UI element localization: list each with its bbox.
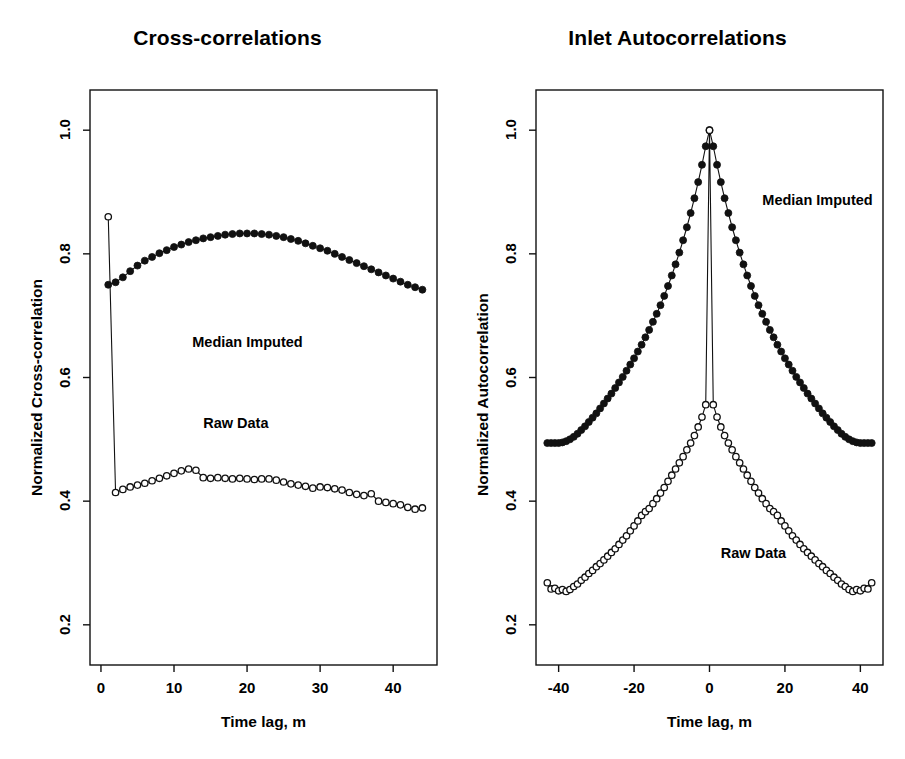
x-tick-label: 20 (217, 679, 277, 696)
data-point (747, 282, 754, 289)
data-point (638, 341, 645, 348)
y-tick-label: 0.8 (56, 236, 73, 270)
series-annotation: Raw Data (203, 415, 268, 431)
data-point (156, 475, 162, 481)
y-tick-label: 1.0 (502, 113, 519, 147)
data-point (171, 470, 177, 476)
data-point (207, 475, 213, 481)
x-tick-label: 0 (71, 679, 131, 696)
data-point (755, 302, 762, 309)
data-point (676, 460, 682, 466)
x-tick-label: 40 (830, 679, 890, 696)
data-point (127, 484, 133, 490)
data-point (744, 272, 751, 279)
y-tick-label: 0.2 (502, 607, 519, 641)
data-point (295, 237, 302, 244)
data-point (623, 367, 630, 374)
data-point (346, 257, 353, 264)
data-point (736, 249, 743, 256)
y-tick-label: 0.4 (56, 484, 73, 518)
x-tick-label: 0 (680, 679, 740, 696)
data-point (740, 261, 747, 268)
y-tick-label: 0.6 (56, 360, 73, 394)
data-point (865, 586, 871, 592)
data-point (215, 474, 221, 480)
data-point (346, 489, 352, 495)
data-point (781, 355, 788, 362)
y-axis-label: Normalized Cross-correlation (28, 278, 46, 495)
data-point (763, 318, 770, 325)
data-point (251, 230, 258, 237)
data-point (142, 480, 148, 486)
data-point (222, 231, 229, 238)
data-point (332, 486, 338, 492)
data-point (273, 477, 279, 483)
figure-root: Cross-correlations 0102030400.20.40.60.8… (0, 0, 905, 759)
data-point (164, 473, 170, 479)
data-point (339, 487, 345, 493)
data-point (178, 468, 184, 474)
data-point (383, 499, 389, 505)
data-point (412, 284, 419, 291)
data-point (710, 143, 717, 150)
data-point (733, 453, 739, 459)
data-point (375, 498, 381, 504)
data-point (331, 250, 338, 257)
x-axis-label: Time lag, m (144, 713, 384, 731)
data-point (134, 262, 141, 269)
data-point (185, 466, 191, 472)
data-point (691, 195, 698, 202)
data-point (222, 475, 228, 481)
data-point (699, 414, 705, 420)
data-point (405, 504, 411, 510)
data-point (287, 236, 294, 243)
data-point (661, 484, 667, 490)
data-point (258, 231, 265, 238)
data-point (382, 272, 389, 279)
data-point (766, 326, 773, 333)
data-point (105, 214, 111, 220)
data-point (360, 263, 367, 270)
data-point (646, 326, 653, 333)
data-point (653, 310, 660, 317)
data-point (141, 257, 148, 264)
data-point (419, 286, 426, 293)
x-tick-label: 40 (363, 679, 423, 696)
data-point (785, 361, 792, 368)
data-point (691, 432, 697, 438)
data-point (725, 440, 731, 446)
data-point (774, 341, 781, 348)
data-point (192, 237, 199, 244)
data-point (324, 247, 331, 254)
data-point (661, 292, 668, 299)
panel-title-left: Cross-correlations (0, 26, 455, 50)
data-point (163, 247, 170, 254)
data-point (149, 478, 155, 484)
data-point (397, 278, 404, 285)
data-point (149, 253, 156, 260)
data-point (288, 481, 294, 487)
data-point (244, 230, 251, 237)
data-point (744, 472, 750, 478)
data-point (390, 275, 397, 282)
data-point (134, 482, 140, 488)
data-point (649, 318, 656, 325)
data-point (683, 224, 690, 231)
series-line-raw-data (108, 217, 422, 509)
data-point (280, 234, 287, 241)
data-point (390, 500, 396, 506)
data-point (171, 244, 178, 251)
data-point (324, 484, 330, 490)
data-point (280, 479, 286, 485)
data-point (680, 237, 687, 244)
data-point (244, 476, 250, 482)
data-point (627, 361, 634, 368)
data-point (729, 224, 736, 231)
data-point (665, 282, 672, 289)
data-point (721, 195, 728, 202)
data-point (353, 260, 360, 267)
data-point (120, 486, 126, 492)
x-tick-label: 10 (144, 679, 204, 696)
y-tick-label: 0.8 (502, 236, 519, 270)
x-tick-label: 30 (290, 679, 350, 696)
